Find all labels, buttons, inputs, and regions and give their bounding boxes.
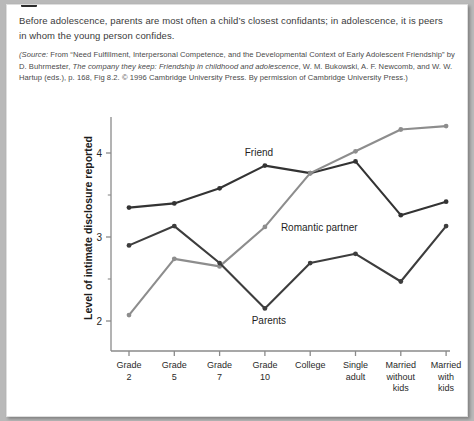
series-line-parents bbox=[129, 226, 446, 308]
data-point bbox=[217, 186, 222, 191]
y-tick-label: 4 bbox=[96, 148, 102, 159]
data-point bbox=[263, 225, 268, 230]
chart-container: 234Level of intimate disclosure reported… bbox=[7, 101, 468, 416]
y-tick-label: 2 bbox=[96, 316, 102, 327]
series-label-romantic-partner: Romantic partner bbox=[281, 222, 358, 233]
figure-caption: Before adolescence, parents are most oft… bbox=[19, 13, 453, 43]
data-point bbox=[353, 159, 358, 164]
data-point bbox=[217, 261, 222, 266]
data-point bbox=[308, 171, 313, 176]
line-chart: 234Level of intimate disclosure reported… bbox=[7, 101, 468, 416]
x-tick-label: Grade5 bbox=[162, 360, 187, 382]
data-point bbox=[444, 199, 449, 204]
y-tick-label: 3 bbox=[96, 232, 102, 243]
data-point bbox=[127, 205, 132, 210]
data-point bbox=[172, 201, 177, 206]
data-point bbox=[263, 306, 268, 311]
figure-card: Before adolescence, parents are most oft… bbox=[6, 4, 468, 417]
x-tick-label: Grade10 bbox=[252, 360, 277, 382]
data-point bbox=[308, 261, 313, 266]
series-label-friend: Friend bbox=[245, 147, 273, 158]
data-point bbox=[444, 224, 449, 229]
y-axis-title: Level of intimate disclosure reported bbox=[82, 136, 94, 320]
page-corner-marker bbox=[21, 4, 37, 7]
data-point bbox=[398, 127, 403, 132]
data-point bbox=[127, 313, 132, 318]
data-point bbox=[444, 124, 449, 129]
data-point bbox=[127, 243, 132, 248]
data-point bbox=[353, 149, 358, 154]
x-tick-label: Grade2 bbox=[116, 360, 141, 382]
data-point bbox=[398, 213, 403, 218]
series-label-parents: Parents bbox=[252, 315, 286, 326]
data-point bbox=[263, 163, 268, 168]
x-tick-label: Singleadult bbox=[343, 360, 368, 382]
data-point bbox=[353, 251, 358, 256]
data-point bbox=[398, 279, 403, 284]
x-tick-label: Marriedwithkids bbox=[431, 360, 462, 393]
data-point bbox=[172, 256, 177, 261]
x-tick-label: Marriedwithoutkids bbox=[386, 360, 417, 393]
series-line-friend bbox=[129, 161, 446, 215]
x-tick-label: Grade7 bbox=[207, 360, 232, 382]
data-point bbox=[172, 224, 177, 229]
figure-source: (Source: From “Need Fulfillment, Interpe… bbox=[19, 49, 459, 84]
x-tick-label: College bbox=[295, 360, 326, 370]
source-italic-title: The company they keep: Friendship in chi… bbox=[73, 62, 299, 71]
source-prefix: (Source: bbox=[19, 50, 48, 59]
